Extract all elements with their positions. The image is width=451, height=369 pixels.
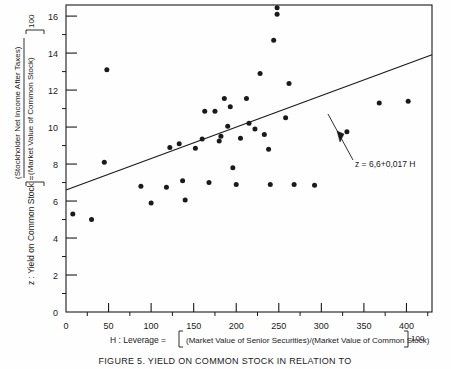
x-tick-label-100: 100 xyxy=(144,321,159,331)
y-axis-label: z : Yield on Common Stock = (Stockholder… xyxy=(13,14,44,285)
data-point xyxy=(102,160,107,165)
y-label-close-bracket xyxy=(26,30,44,34)
data-point xyxy=(183,198,188,203)
data-point xyxy=(225,124,230,129)
y-axis-ticks xyxy=(62,16,77,293)
x-axis-label-lead: H : Leverage = xyxy=(110,335,166,345)
data-point xyxy=(275,12,280,17)
data-point xyxy=(406,99,411,104)
data-point xyxy=(228,104,233,109)
x-tick-label-50: 50 xyxy=(104,321,114,331)
data-point xyxy=(149,200,154,205)
data-point xyxy=(230,165,235,170)
data-point xyxy=(271,38,276,43)
leader-arrowhead xyxy=(337,131,344,142)
data-point xyxy=(268,182,273,187)
data-point xyxy=(287,81,292,86)
scatter-chart: 050100150200250300350400 0246810121416 z… xyxy=(0,0,451,369)
data-point xyxy=(258,71,263,76)
data-point xyxy=(70,211,75,216)
y-axis-label-denominator: (Market Value of Common Stock) xyxy=(26,57,35,175)
y-tick-label-12: 12 xyxy=(48,86,58,96)
x-axis-ticks xyxy=(87,303,427,316)
figure-page: 050100150200250300350400 0246810121416 z… xyxy=(0,0,451,369)
data-point xyxy=(262,132,267,137)
data-point xyxy=(238,136,243,141)
y-tick-label-8: 8 xyxy=(53,160,58,170)
data-point xyxy=(247,121,252,126)
data-point xyxy=(217,138,222,143)
x-tick-label-0: 0 xyxy=(63,321,68,331)
data-point xyxy=(275,5,280,10)
data-point xyxy=(177,141,182,146)
data-point xyxy=(244,96,249,101)
data-point xyxy=(283,115,288,120)
x-label-open-bracket xyxy=(179,331,183,347)
annotation-leader-line xyxy=(328,114,353,160)
x-tick-label-200: 200 xyxy=(229,321,244,331)
x-axis-label-expression: (Market Value of Senior Securities)/(Mar… xyxy=(186,336,430,345)
y-tick-label-0: 0 xyxy=(53,308,58,318)
x-tick-label-250: 250 xyxy=(271,321,286,331)
y-axis-tick-labels: 0246810121416 xyxy=(48,12,58,318)
y-tick-label-16: 16 xyxy=(48,12,58,22)
x-tick-label-300: 300 xyxy=(314,321,329,331)
x-tick-label-150: 150 xyxy=(186,321,201,331)
data-point xyxy=(212,109,217,114)
data-point xyxy=(104,67,109,72)
data-point xyxy=(202,109,207,114)
y-axis-label-numerator: (Stockholder Net Income After Taxes) xyxy=(13,46,22,179)
data-point xyxy=(234,182,239,187)
y-tick-label-14: 14 xyxy=(48,49,58,59)
x-tick-label-400: 400 xyxy=(399,321,414,331)
y-tick-label-2: 2 xyxy=(53,271,58,281)
data-point xyxy=(218,134,223,139)
data-point xyxy=(312,183,317,188)
y-tick-label-6: 6 xyxy=(53,197,58,207)
data-point xyxy=(164,185,169,190)
y-tick-label-4: 4 xyxy=(53,234,58,244)
data-point xyxy=(222,96,227,101)
data-point xyxy=(89,217,94,222)
x-axis-tick-labels: 050100150200250300350400 xyxy=(63,321,413,331)
data-point xyxy=(167,145,172,150)
data-point xyxy=(138,184,143,189)
y-axis-label-lead: z : Yield on Common Stock = xyxy=(26,176,36,285)
data-point xyxy=(266,147,271,152)
data-point xyxy=(200,137,205,142)
data-point xyxy=(206,180,211,185)
regression-equation-label: z = 6,6+0,017 H xyxy=(355,159,416,169)
x-axis-label-multiplier: 100 xyxy=(411,334,425,343)
x-axis-label: H : Leverage = (Market Value of Senior S… xyxy=(110,331,430,347)
y-axis-label-multiplier: 100 xyxy=(27,14,36,28)
data-point xyxy=(344,129,349,134)
figure-caption: FIGURE 5. YIELD ON COMMON STOCK IN RELAT… xyxy=(98,356,351,366)
data-point xyxy=(180,178,185,183)
data-point xyxy=(193,146,198,151)
x-tick-label-350: 350 xyxy=(356,321,371,331)
y-tick-label-10: 10 xyxy=(48,123,58,133)
data-point xyxy=(252,126,257,131)
data-point xyxy=(377,101,382,106)
scatter-points xyxy=(70,5,410,222)
data-point xyxy=(292,182,297,187)
